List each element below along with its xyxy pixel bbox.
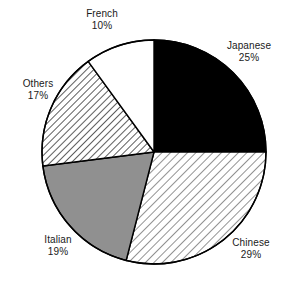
slice-label-chinese-name: Chinese (212, 237, 290, 249)
slice-label-japanese: Japanese 25% (210, 40, 288, 64)
pie-chart-figure: French 10% Japanese 25% Others 17% Itali… (0, 0, 292, 283)
slice-label-others: Others 17% (2, 78, 74, 102)
slice-label-italian: Italian 19% (22, 234, 94, 258)
slice-label-french-name: French (62, 8, 142, 20)
slice-label-italian-value: 19% (22, 246, 94, 258)
slice-label-italian-name: Italian (22, 234, 94, 246)
pie-slices-group (42, 40, 266, 264)
slice-label-chinese: Chinese 29% (212, 237, 290, 261)
slice-label-french-value: 10% (62, 20, 142, 32)
slice-label-chinese-value: 29% (212, 249, 290, 261)
slice-label-others-value: 17% (2, 90, 74, 102)
slice-label-japanese-value: 25% (210, 52, 288, 64)
slice-label-french: French 10% (62, 8, 142, 32)
slice-label-others-name: Others (2, 78, 74, 90)
slice-label-japanese-name: Japanese (210, 40, 288, 52)
